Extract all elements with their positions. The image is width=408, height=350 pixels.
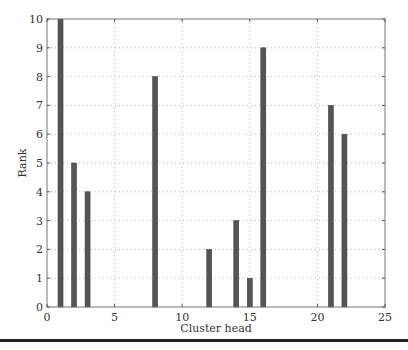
bar	[328, 105, 333, 307]
y-tick-label: 9	[36, 42, 43, 55]
bar	[234, 221, 239, 307]
y-tick-label: 3	[36, 215, 43, 228]
y-tick-label: 1	[36, 272, 43, 285]
y-tick-label: 0	[36, 301, 43, 314]
x-axis-label: Cluster head	[180, 322, 252, 335]
x-tick-label: 0	[44, 311, 51, 324]
bar-chart: 0510152025 012345678910 Cluster head Ran…	[0, 0, 408, 350]
grid-lines	[47, 19, 385, 307]
y-tick-label: 7	[36, 99, 43, 112]
bottom-divider	[0, 339, 408, 342]
y-tick-label: 8	[36, 71, 43, 84]
y-axis-label: Rank	[16, 148, 29, 177]
bar	[72, 163, 77, 307]
y-tick-label: 10	[29, 13, 43, 26]
bar	[153, 77, 158, 307]
y-tick-label: 4	[36, 186, 43, 199]
bar	[342, 134, 347, 307]
x-tick-label: 5	[111, 311, 118, 324]
bar	[261, 48, 266, 307]
bar	[58, 19, 63, 307]
bar	[207, 249, 212, 307]
y-tick-label: 5	[36, 157, 43, 170]
y-tick-label: 6	[36, 128, 43, 141]
x-tick-label: 25	[378, 311, 392, 324]
bar	[85, 192, 90, 307]
bar	[247, 278, 252, 307]
y-tick-label: 2	[36, 243, 43, 256]
x-tick-label: 20	[310, 311, 324, 324]
